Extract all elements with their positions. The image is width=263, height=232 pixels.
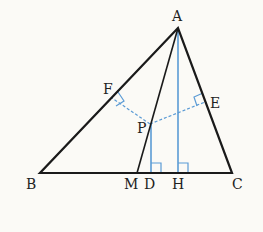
label-F: F	[103, 82, 113, 96]
label-B: B	[26, 177, 36, 191]
label-C: C	[232, 177, 243, 191]
label-E: E	[210, 96, 220, 110]
right-angle-mark-F	[116, 92, 124, 106]
label-P: P	[137, 121, 146, 135]
geometry-diagram	[0, 0, 263, 232]
label-H: H	[172, 177, 184, 191]
label-D: D	[144, 177, 155, 191]
label-A: A	[172, 9, 182, 23]
triangle-ABC	[40, 28, 232, 173]
right-angle-mark-H	[178, 163, 188, 173]
right-angle-mark-D	[151, 163, 161, 173]
label-M: M	[124, 177, 138, 191]
